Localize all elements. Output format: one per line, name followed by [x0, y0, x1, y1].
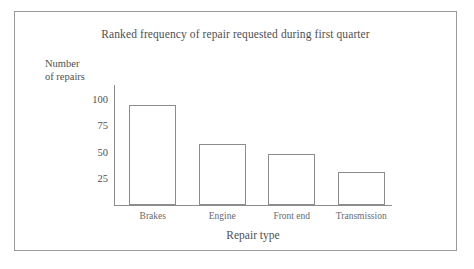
y-axis-tick-label: 25 — [98, 173, 109, 184]
x-axis-tick-label: Front end — [273, 211, 310, 221]
x-axis-tick-label: Brakes — [140, 211, 166, 221]
y-axis-tick-label: 75 — [98, 120, 109, 131]
plot-area: 100755025BrakesEngineFront endTransmissi… — [114, 85, 392, 206]
x-axis-tick-label: Engine — [209, 211, 236, 221]
x-axis-label: Repair type — [114, 229, 392, 241]
chart-title: Ranked frequency of repair requested dur… — [14, 28, 457, 40]
y-axis-label-line-2: of repairs — [45, 71, 117, 84]
y-axis-tick-label: 50 — [98, 146, 109, 157]
y-axis-tick-label: 100 — [92, 93, 108, 104]
y-axis-line — [114, 85, 115, 206]
bar-engine — [199, 144, 246, 205]
chart-figure: Ranked frequency of repair requested dur… — [0, 0, 474, 269]
bar-brakes — [129, 105, 176, 205]
y-axis-label: Number of repairs — [45, 58, 117, 83]
y-axis-label-line-1: Number — [45, 58, 79, 69]
x-axis-line — [114, 205, 392, 206]
bar-transmission — [338, 172, 385, 205]
bar-front-end — [268, 154, 315, 205]
x-axis-tick-label: Transmission — [336, 211, 387, 221]
